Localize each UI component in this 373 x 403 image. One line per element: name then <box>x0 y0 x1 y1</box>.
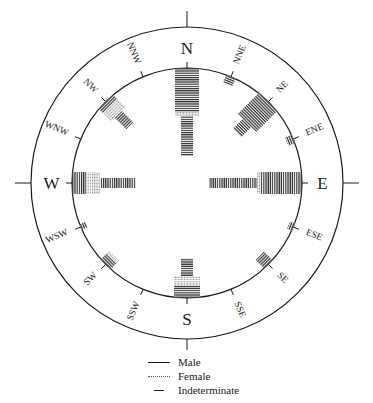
inner-tick-SE <box>268 264 272 268</box>
male-line-swatch <box>148 362 170 363</box>
legend: Male Female Indeterminate <box>148 355 239 397</box>
direction-label-SE: SE <box>275 270 290 285</box>
male-segment <box>260 172 302 194</box>
inner-tick-NNE <box>231 71 233 77</box>
female-segment <box>86 172 100 194</box>
female-segment <box>175 112 199 116</box>
orientation-rose-diagram: NESWNNENEENEESESESSESSWSWWSWWNWNWNNW <box>0 0 373 350</box>
direction-label-SSE: SSE <box>232 300 248 319</box>
inner-tick-SW <box>101 264 105 268</box>
direction-label-NE: NE <box>274 79 290 95</box>
inner-tick-ENE <box>293 137 299 139</box>
inner-tick-WNW <box>75 137 81 139</box>
indeterminate-short-line-swatch <box>154 390 164 391</box>
inner-tick-SSE <box>231 289 233 295</box>
male-segment <box>72 172 86 194</box>
cardinal-label-E: E <box>317 174 327 193</box>
indet-segment <box>209 178 257 188</box>
direction-label-NNW: NNW <box>125 41 143 66</box>
bar-ESE <box>287 221 295 230</box>
direction-label-NNE: NNE <box>231 43 248 65</box>
legend-indeterminate: Indeterminate <box>148 383 239 397</box>
bar-ENE <box>285 135 295 146</box>
direction-label-NW: NW <box>82 76 100 94</box>
female-dotted-swatch <box>148 376 170 377</box>
cardinal-label-W: W <box>43 174 60 193</box>
bar-N <box>175 68 199 156</box>
indet-segment <box>181 258 193 276</box>
direction-label-WNW: WNW <box>43 119 70 138</box>
inner-tick-NE <box>268 97 272 101</box>
male-segment <box>175 68 199 112</box>
legend-male: Male <box>148 355 239 369</box>
cardinal-label-S: S <box>182 310 191 329</box>
direction-label-SW: SW <box>82 270 99 287</box>
compass-ticks <box>15 11 359 350</box>
bar-E <box>209 172 302 194</box>
inner-tick-SSW <box>141 289 143 295</box>
direction-label-ENE: ENE <box>304 121 325 137</box>
indet-segment <box>181 116 193 156</box>
female-segment <box>257 172 260 194</box>
legend-indeterminate-label: Indeterminate <box>178 383 239 397</box>
inner-tick-ESE <box>293 227 299 229</box>
legend-male-label: Male <box>178 355 201 369</box>
male-segment <box>285 135 295 146</box>
indet-segment <box>100 178 136 188</box>
direction-label-SSW: SSW <box>125 300 142 322</box>
male-segment <box>287 221 295 230</box>
bar-W <box>72 172 136 194</box>
inner-tick-NNW <box>141 71 143 77</box>
male-segment <box>223 75 235 86</box>
cardinal-label-N: N <box>181 39 193 58</box>
inner-tick-NW <box>101 97 105 101</box>
legend-female-label: Female <box>178 369 210 383</box>
female-segment <box>174 276 200 286</box>
bar-NNE <box>223 75 235 86</box>
bar-S <box>174 258 200 298</box>
male-segment <box>174 286 200 298</box>
legend-female: Female <box>148 369 239 383</box>
orientation-bars <box>72 68 302 298</box>
inner-tick-WSW <box>75 227 81 229</box>
direction-label-ESE: ESE <box>305 227 325 243</box>
direction-label-WSW: WSW <box>44 227 69 245</box>
